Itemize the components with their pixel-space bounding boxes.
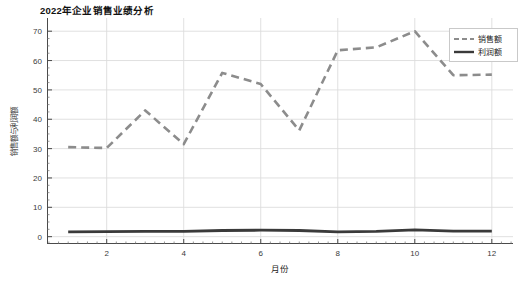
y-tick-label: 10 [33, 203, 42, 212]
legend-label-profit: 利润额 [478, 46, 502, 57]
x-tick-label: 8 [336, 249, 340, 258]
y-tick-label: 60 [33, 56, 42, 65]
y-tick-label: 50 [33, 85, 42, 94]
solid-line-icon [454, 47, 474, 57]
y-tick-label: 40 [33, 115, 42, 124]
series-line [68, 31, 492, 148]
x-axis-label: 月份 [271, 262, 289, 274]
y-tick-label: 70 [33, 27, 42, 36]
legend-item-profit: 利润额 [454, 45, 513, 58]
x-tick-label: 2 [104, 249, 108, 258]
chart-legend: 销售额 利润额 [449, 28, 518, 62]
data-series-layer [47, 18, 513, 244]
x-tick-label: 4 [181, 249, 185, 258]
x-tick-label: 10 [410, 249, 419, 258]
legend-label-sales: 销售额 [478, 33, 502, 44]
chart-figure: 2022年企业销售业绩分析 销售额与利润额 月份 010203040506070… [0, 0, 524, 288]
chart-title: 2022年企业销售业绩分析 [40, 3, 154, 17]
dashed-line-icon [454, 34, 474, 44]
y-tick-label: 30 [33, 144, 42, 153]
y-tick-label: 20 [33, 173, 42, 182]
y-axis-label: 销售额与利润额 [8, 107, 19, 156]
plot-area: 01020304050607024681012 [47, 18, 513, 244]
x-tick-label: 12 [487, 249, 496, 258]
x-tick-label: 6 [259, 249, 263, 258]
legend-item-sales: 销售额 [454, 32, 513, 45]
series-line [68, 230, 492, 232]
y-tick-label: 0 [38, 232, 42, 241]
